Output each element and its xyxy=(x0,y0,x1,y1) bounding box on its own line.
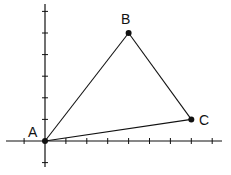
point-b-dot xyxy=(126,30,132,36)
label-point-b: B xyxy=(121,11,130,27)
point-c-dot xyxy=(188,116,194,122)
segment-bc xyxy=(129,33,192,119)
segment-ab xyxy=(45,33,129,141)
triangle-diagram: A B C xyxy=(0,0,231,175)
label-point-c: C xyxy=(199,112,209,128)
label-point-a: A xyxy=(28,124,38,140)
triangle-sides xyxy=(45,33,191,141)
point-a-dot xyxy=(42,138,48,144)
coordinate-axes xyxy=(6,4,222,167)
segment-ca xyxy=(45,119,191,141)
